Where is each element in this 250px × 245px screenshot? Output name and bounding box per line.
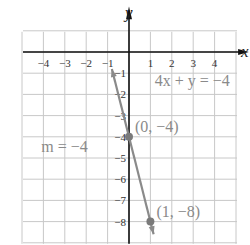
x-tick-label: −4 bbox=[38, 57, 50, 69]
x-tick-label: 2 bbox=[169, 57, 175, 69]
arrowhead-down-icon bbox=[149, 226, 155, 234]
x-tick-label: 3 bbox=[190, 57, 196, 69]
point-label: (0, −4) bbox=[135, 118, 179, 136]
x-tick-label: 1 bbox=[148, 57, 154, 69]
y-tick-label: −8 bbox=[114, 216, 126, 228]
point-label: (1, −8) bbox=[156, 203, 200, 221]
y-axis-label: y bbox=[123, 3, 133, 22]
y-tick-label: −6 bbox=[114, 173, 126, 185]
plotted-points: (0, −4)(1, −8) bbox=[125, 118, 200, 226]
data-point bbox=[146, 218, 154, 226]
annotation-label: m = −4 bbox=[41, 138, 87, 155]
y-tick-label: −4 bbox=[114, 131, 126, 143]
x-tick-label: 4 bbox=[212, 57, 218, 69]
y-tick-label: −1 bbox=[114, 67, 126, 79]
y-tick-label: −5 bbox=[114, 152, 126, 164]
x-tick-label: −2 bbox=[80, 57, 92, 69]
annotations: 4x + y = −4m = −4 bbox=[41, 72, 229, 155]
x-tick-label: −3 bbox=[59, 57, 71, 69]
data-point bbox=[125, 133, 133, 141]
coordinate-plane: −4−3−2−11234−1−2−3−4−5−6−7−8 (0, −4)(1, … bbox=[0, 0, 250, 245]
x-tick-label: −1 bbox=[102, 57, 114, 69]
annotation-label: 4x + y = −4 bbox=[155, 72, 230, 90]
y-tick-label: −7 bbox=[114, 194, 126, 206]
x-axis-label: x bbox=[240, 42, 249, 61]
